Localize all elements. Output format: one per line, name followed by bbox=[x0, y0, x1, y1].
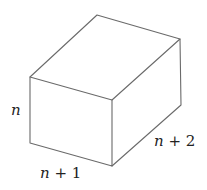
height-label-var: n bbox=[11, 101, 21, 119]
prism-edges bbox=[0, 0, 207, 190]
width-label: n + 1 bbox=[40, 166, 81, 181]
depth-label: n + 2 bbox=[154, 134, 195, 149]
width-label-op: + bbox=[54, 164, 67, 182]
width-label-var: n bbox=[40, 164, 50, 182]
depth-label-op: + bbox=[168, 132, 181, 150]
depth-label-var: n bbox=[154, 132, 164, 150]
front-face bbox=[30, 77, 112, 166]
depth-label-num: 2 bbox=[186, 132, 196, 150]
height-label: n bbox=[11, 103, 21, 118]
width-label-num: 1 bbox=[72, 164, 82, 182]
top-face bbox=[30, 15, 180, 100]
prism-diagram: n n + 1 n + 2 bbox=[0, 0, 207, 190]
